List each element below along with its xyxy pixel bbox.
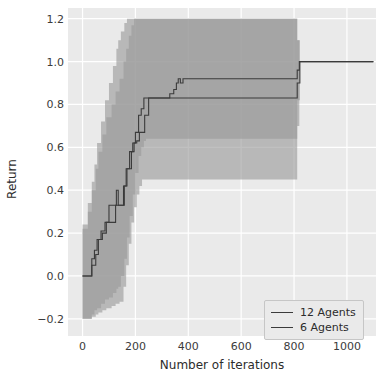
legend-item-label: 6 Agents bbox=[300, 321, 349, 334]
x-tick-label: 400 bbox=[178, 340, 199, 353]
legend-item-6-agents[interactable]: 6 Agents bbox=[271, 320, 356, 335]
chart-canvas bbox=[68, 8, 376, 336]
legend-line-swatch-icon bbox=[271, 327, 293, 328]
y-tick-label: −0.2 bbox=[2, 312, 64, 325]
x-axis-label: Number of iterations bbox=[68, 358, 376, 372]
legend-item-label: 12 Agents bbox=[300, 306, 356, 319]
legend-line-swatch-icon bbox=[271, 312, 293, 313]
x-tick-label: 0 bbox=[79, 340, 86, 353]
x-tick-label: 1000 bbox=[333, 340, 361, 353]
plot-area bbox=[68, 8, 376, 336]
x-tick-label: 800 bbox=[284, 340, 305, 353]
y-tick-label: 1.0 bbox=[2, 55, 64, 68]
y-tick-label: 1.2 bbox=[2, 12, 64, 25]
chart-legend[interactable]: 12 Agents 6 Agents bbox=[264, 300, 364, 340]
y-tick-label: 0.8 bbox=[2, 98, 64, 111]
x-tick-label: 200 bbox=[125, 340, 146, 353]
chart-figure: −0.20.00.20.40.60.81.01.2 02004006008001… bbox=[0, 0, 387, 384]
y-tick-label: 0.0 bbox=[2, 269, 64, 282]
y-axis-label: Return bbox=[5, 119, 19, 239]
legend-item-12-agents[interactable]: 12 Agents bbox=[271, 305, 356, 320]
x-tick-label: 600 bbox=[231, 340, 252, 353]
